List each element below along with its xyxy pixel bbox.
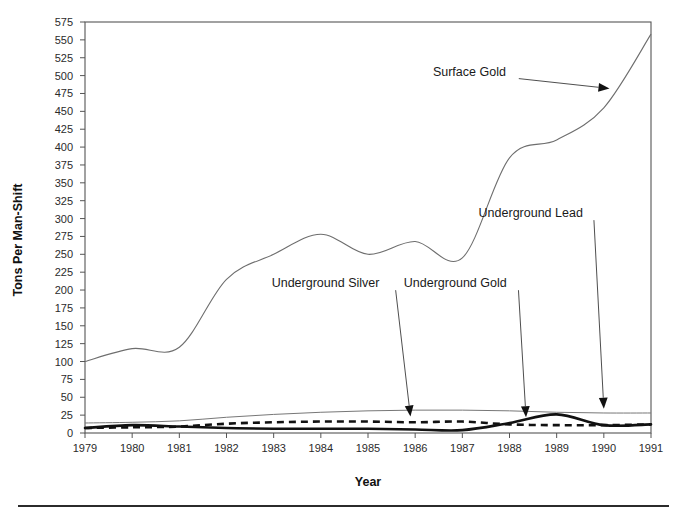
annotation-surface-gold: Surface Gold [433,65,610,92]
annotation-leader-line [519,79,599,88]
x-axis-tick-marks [85,433,651,438]
x-tick-label: 1984 [309,442,333,454]
annotation-leader-line [518,290,525,406]
annotation-underground-lead: Underground Lead [479,206,608,409]
x-tick-label: 1990 [592,442,616,454]
annotation-label: Underground Silver [272,276,380,290]
tons-per-man-shift-line-chart: 0255075100125150175200225250275300325350… [0,0,687,511]
data-series-layer [85,34,651,430]
y-tick-label: 200 [55,284,73,296]
annotation-layer: Surface GoldUnderground LeadUnderground … [272,65,610,418]
x-tick-label: 1983 [261,442,285,454]
series-line-surface-gold [85,34,651,361]
annotation-underground-silver: Underground Silver [272,276,414,416]
y-tick-label: 350 [55,177,73,189]
y-tick-label: 225 [55,266,73,278]
y-tick-label: 100 [55,356,73,368]
x-tick-label: 1988 [497,442,521,454]
y-tick-label: 50 [61,391,73,403]
y-axis-title: Tons Per Man-Shift [11,183,25,297]
annotation-leader-line [396,290,410,405]
x-tick-label: 1982 [214,442,238,454]
x-tick-label: 1989 [544,442,568,454]
chart-figure: 0255075100125150175200225250275300325350… [0,0,687,511]
annotation-underground-gold: Underground Gold [404,276,530,417]
y-tick-label: 25 [61,409,73,421]
x-tick-label: 1985 [356,442,380,454]
x-tick-label: 1981 [167,442,191,454]
annotation-label: Underground Lead [479,206,583,220]
y-tick-label: 425 [55,123,73,135]
annotation-arrowhead [599,397,608,408]
y-tick-label: 575 [55,16,73,28]
y-tick-label: 550 [55,34,73,46]
y-tick-label: 125 [55,338,73,350]
x-tick-label: 1980 [120,442,144,454]
y-tick-label: 500 [55,70,73,82]
annotation-leader-line [594,220,603,398]
annotation-arrowhead [598,83,609,92]
y-axis-tick-labels: 0255075100125150175200225250275300325350… [55,16,73,439]
annotation-label: Surface Gold [433,65,506,79]
y-tick-label: 175 [55,302,73,314]
y-tick-label: 150 [55,320,73,332]
y-axis-tick-marks [80,22,85,433]
x-tick-label: 1986 [403,442,427,454]
y-tick-label: 300 [55,213,73,225]
annotation-arrowhead [405,405,414,416]
y-tick-label: 475 [55,87,73,99]
x-axis-tick-labels: 1979198019811982198319841985198619871988… [73,442,663,454]
x-tick-label: 1979 [73,442,97,454]
y-tick-label: 325 [55,195,73,207]
x-axis-title: Year [355,475,382,489]
y-tick-label: 375 [55,159,73,171]
y-tick-label: 275 [55,230,73,242]
y-tick-label: 525 [55,52,73,64]
y-tick-label: 0 [67,427,73,439]
x-tick-label: 1987 [450,442,474,454]
y-tick-label: 400 [55,141,73,153]
y-tick-label: 450 [55,105,73,117]
y-tick-label: 250 [55,248,73,260]
y-tick-label: 75 [61,373,73,385]
x-tick-label: 1991 [639,442,663,454]
annotation-label: Underground Gold [404,276,507,290]
